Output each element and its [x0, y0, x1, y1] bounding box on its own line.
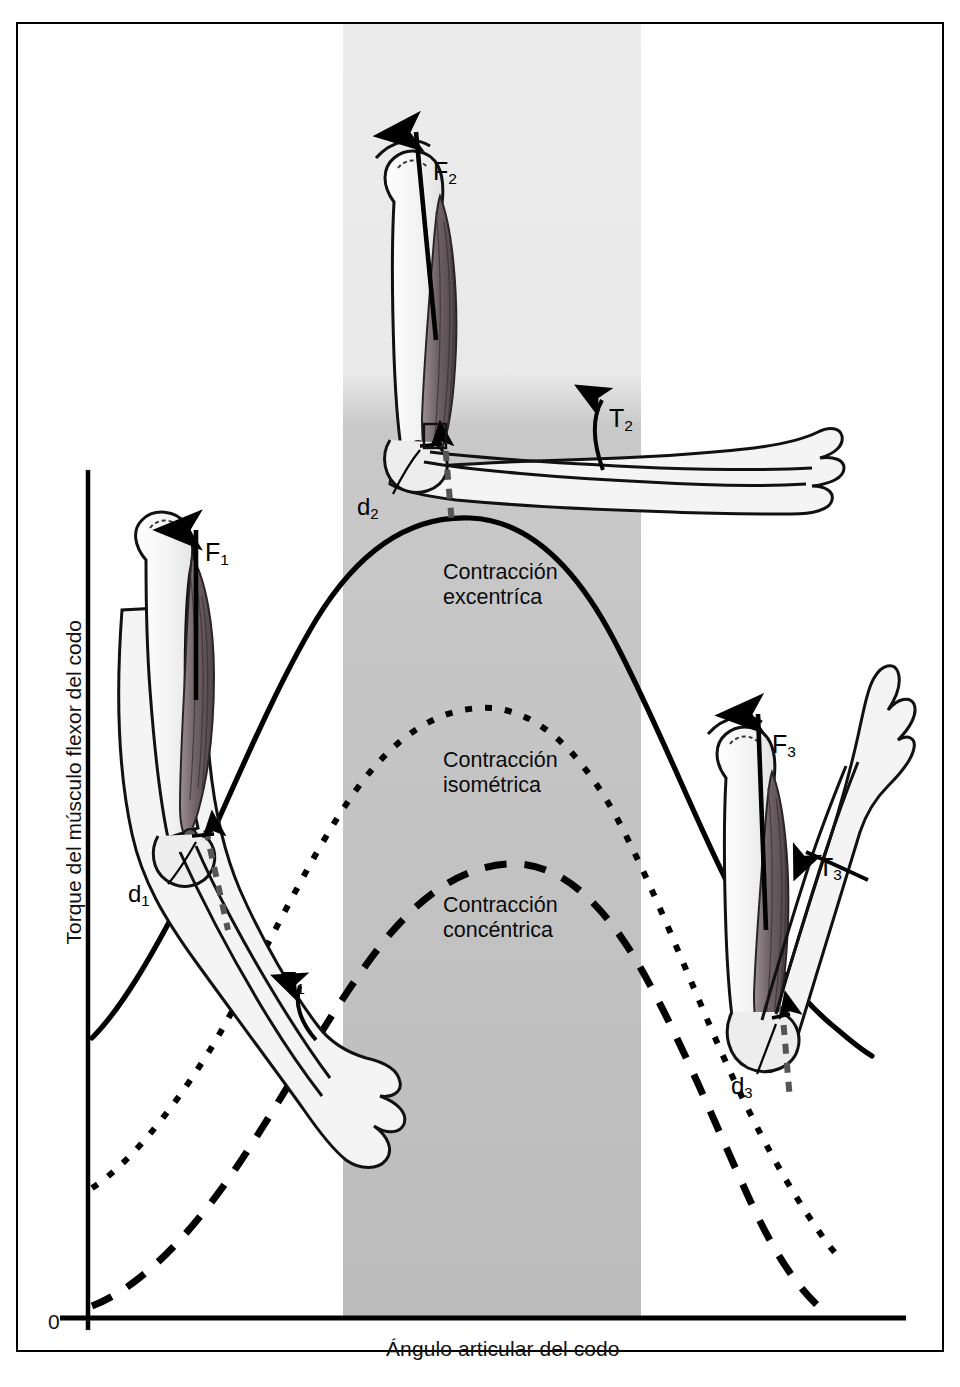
annotation-torque-3: T3 — [818, 853, 842, 884]
annotation-torque-1: T1 — [281, 967, 305, 998]
annotation-force-1: F1 — [205, 538, 229, 569]
annotation-torque-3-sub: 3 — [833, 866, 842, 883]
annotation-moment-arm-2-sub: 2 — [370, 506, 378, 522]
annotation-moment-arm-3: d3 — [731, 1072, 753, 1101]
curve-label-concentric: Contracción concéntrica — [443, 893, 558, 944]
curve-label-eccentric: Contracción excentríca — [443, 560, 558, 611]
y-axis-label-wrapper: Torque del músculo flexor del codo — [36, 620, 70, 1060]
curve-label-isometric: Contracción isométrica — [443, 748, 558, 799]
annotation-torque-1-sub: 1 — [296, 980, 305, 997]
annotation-force-2: F2 — [433, 157, 457, 188]
arm1-moment-arm-indicator — [192, 834, 214, 836]
annotation-moment-arm-1-sub: 1 — [141, 893, 149, 909]
annotation-torque-2-sub: 2 — [624, 417, 633, 434]
annotation-force-3: F3 — [772, 730, 796, 761]
annotation-moment-arm-2-base: d — [357, 493, 370, 520]
y-axis-label: Torque del músculo flexor del codo — [62, 620, 86, 945]
annotation-force-3-sub: 3 — [787, 743, 796, 760]
annotation-moment-arm-3-sub: 3 — [744, 1085, 752, 1101]
annotation-moment-arm-2: d2 — [357, 493, 379, 522]
annotation-moment-arm-3-base: d — [731, 1072, 744, 1099]
annotation-force-3-base: F — [772, 730, 787, 758]
annotation-moment-arm-1-base: d — [128, 880, 141, 907]
x-axis-label: Ángulo articular del codo — [386, 1337, 620, 1361]
curve-label-isometric-line2: isométrica — [443, 773, 541, 797]
annotation-force-2-sub: 2 — [448, 170, 457, 187]
arm3-skin-outline — [770, 666, 915, 1066]
annotation-moment-arm-1: d1 — [128, 880, 150, 909]
annotation-torque-2-base: T — [609, 404, 624, 432]
annotation-force-2-base: F — [433, 157, 448, 185]
origin-label: 0 — [48, 1310, 60, 1334]
curve-label-concentric-line1: Contracción — [443, 893, 558, 917]
curve-label-eccentric-line2: excentríca — [443, 585, 542, 609]
annotation-force-1-base: F — [205, 538, 220, 566]
annotation-torque-2: T2 — [609, 404, 633, 435]
annotation-torque-1-base: T — [281, 967, 296, 995]
figure-root: Torque del músculo flexor del codo Ángul… — [0, 0, 960, 1387]
annotation-torque-3-base: T — [818, 853, 833, 881]
curve-label-eccentric-line1: Contracción — [443, 560, 558, 584]
curve-label-isometric-line1: Contracción — [443, 748, 558, 772]
arm-illustration-3 — [708, 666, 915, 1100]
curve-label-concentric-line2: concéntrica — [443, 918, 553, 942]
plot-canvas — [0, 0, 960, 1387]
annotation-force-1-sub: 1 — [220, 551, 229, 568]
